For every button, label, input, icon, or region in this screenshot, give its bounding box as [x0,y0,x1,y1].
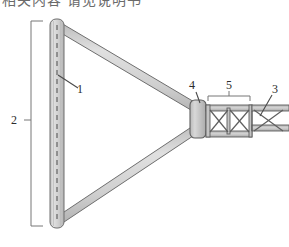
figure-canvas: 相关内容 请见说明书 [0,0,289,247]
callout-label-1: 1 [77,82,83,96]
span-bracket-5 [208,91,250,101]
callout-label-5: 5 [226,78,232,92]
callout-label-2: 2 [11,113,17,127]
end-truss-panel [252,105,289,131]
vertical-mast [50,19,64,228]
truss-panel-1 [210,110,228,132]
truss-panel-2 [230,110,249,132]
diagram-svg: 1 2 3 4 5 [0,0,289,247]
callout-label-4: 4 [189,78,195,92]
lower-diagonal-arm [61,124,196,224]
upper-diagonal-arm [61,23,196,113]
extent-bracket-2 [24,21,43,226]
hub-connector [190,100,206,138]
callout-label-3: 3 [272,82,278,96]
truss-chords-main [206,105,252,137]
lattice-truss [206,105,289,137]
